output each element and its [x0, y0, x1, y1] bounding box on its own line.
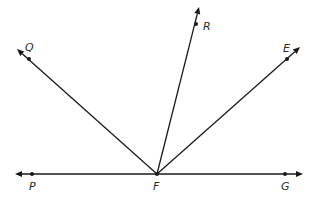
point-R	[194, 22, 198, 26]
point-E	[285, 57, 289, 61]
ray-FR	[157, 14, 197, 174]
labels-group: FPGQRE	[25, 20, 290, 193]
label-G: G	[281, 180, 290, 193]
point-F	[155, 172, 159, 176]
label-R: R	[203, 20, 211, 33]
arrowhead-icon	[15, 171, 22, 177]
rays-group	[15, 7, 303, 177]
ray-FQ	[22, 54, 157, 174]
point-Q	[27, 57, 31, 61]
points-group	[27, 22, 289, 176]
arrowhead-icon	[194, 7, 200, 15]
ray-FE	[157, 52, 295, 174]
point-P	[30, 172, 34, 176]
label-F: F	[153, 180, 160, 193]
label-E: E	[283, 42, 290, 55]
point-G	[283, 172, 287, 176]
label-P: P	[29, 180, 36, 193]
arrowhead-icon	[296, 171, 303, 177]
label-Q: Q	[25, 41, 34, 54]
geometry-diagram: FPGQRE	[0, 0, 312, 198]
